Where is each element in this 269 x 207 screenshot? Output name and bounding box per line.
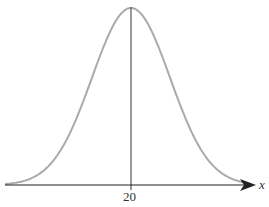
x-axis-label: x xyxy=(259,177,265,193)
normal-curve-chart xyxy=(0,0,269,207)
bell-curve xyxy=(5,8,246,184)
tick-label-mean: 20 xyxy=(123,189,136,205)
